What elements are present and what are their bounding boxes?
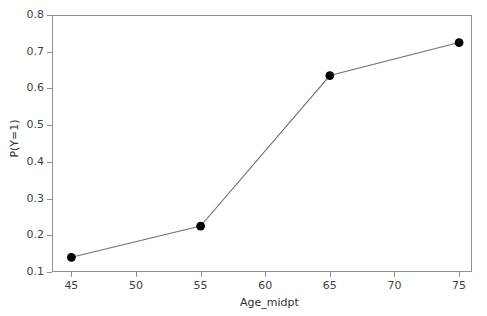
data-point xyxy=(67,253,76,262)
data-point xyxy=(325,71,334,80)
y-axis-tick-label: 0.6 xyxy=(27,82,45,93)
y-axis-tick-label: 0.7 xyxy=(27,46,45,57)
x-axis-tick-label: 55 xyxy=(181,280,221,291)
x-axis-tick xyxy=(394,272,395,277)
y-axis-tick xyxy=(47,235,52,236)
x-axis-tick-label: 70 xyxy=(374,280,414,291)
x-axis-tick-label: 65 xyxy=(310,280,350,291)
data-point xyxy=(196,222,205,231)
y-axis-tick-label: 0.2 xyxy=(27,229,45,240)
y-axis-tick xyxy=(47,52,52,53)
y-axis-tick xyxy=(47,272,52,273)
x-axis-title: Age_midpt xyxy=(26,296,487,309)
x-axis-tick-label: 45 xyxy=(51,280,91,291)
y-axis-tick xyxy=(47,125,52,126)
y-axis-tick-label: 0.4 xyxy=(27,156,45,167)
x-axis-tick xyxy=(330,272,331,277)
chart-container: 0.10.20.30.40.50.60.70.8 45505560657075 … xyxy=(0,0,487,316)
x-axis-tick xyxy=(71,272,72,277)
y-axis-tick-label: 0.1 xyxy=(27,266,45,277)
y-axis-tick xyxy=(47,162,52,163)
chart-title xyxy=(0,0,487,2)
x-axis-tick-label: 50 xyxy=(116,280,156,291)
x-axis-tick xyxy=(201,272,202,277)
x-axis-tick-label: 75 xyxy=(439,280,479,291)
chart-data-layer xyxy=(52,15,472,272)
x-axis-tick xyxy=(265,272,266,277)
y-axis-tick xyxy=(47,88,52,89)
y-axis-tick-label: 0.8 xyxy=(27,9,45,20)
y-axis-tick xyxy=(47,15,52,16)
y-axis-tick-label: 0.3 xyxy=(27,193,45,204)
y-axis-title: P(Y=1) xyxy=(8,89,21,189)
x-axis-tick-label: 60 xyxy=(245,280,285,291)
x-axis-tick xyxy=(459,272,460,277)
series-markers xyxy=(67,38,464,262)
y-axis-tick-label: 0.5 xyxy=(27,119,45,130)
data-point xyxy=(455,38,464,47)
y-axis-tick xyxy=(47,199,52,200)
x-axis-tick xyxy=(136,272,137,277)
series-line xyxy=(71,43,459,258)
